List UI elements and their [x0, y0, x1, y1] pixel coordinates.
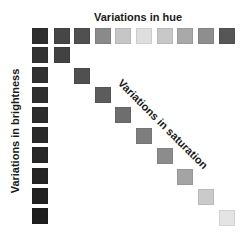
hue-swatch: [95, 28, 111, 44]
brightness-axis-label: Variations in brightness: [9, 69, 21, 194]
saturation-swatch: [115, 107, 131, 123]
hue-swatch: [115, 28, 131, 44]
brightness-swatch: [32, 168, 48, 184]
saturation-swatch: [157, 148, 173, 164]
saturation-swatch: [177, 169, 193, 185]
hue-swatch: [219, 28, 235, 44]
hue-swatch: [198, 28, 214, 44]
brightness-swatch: [32, 107, 48, 123]
brightness-swatch: [32, 147, 48, 163]
hue-swatch: [177, 28, 193, 44]
brightness-swatch: [32, 87, 48, 103]
saturation-swatch: [136, 128, 152, 144]
brightness-swatch: [32, 188, 48, 204]
hue-axis-label: Variations in hue: [94, 11, 182, 23]
hue-swatch: [74, 28, 90, 44]
hue-swatch: [136, 28, 152, 44]
brightness-swatch: [32, 67, 48, 83]
hue-swatch: [32, 28, 48, 44]
brightness-swatch: [32, 47, 48, 63]
hue-swatch: [54, 28, 70, 44]
brightness-swatch: [32, 127, 48, 143]
saturation-swatch: [198, 189, 214, 205]
saturation-swatch: [95, 87, 111, 103]
brightness-swatch: [32, 208, 48, 224]
hue-swatch: [157, 28, 173, 44]
saturation-swatch: [54, 47, 70, 63]
saturation-swatch: [219, 210, 235, 226]
saturation-swatch: [74, 68, 90, 84]
